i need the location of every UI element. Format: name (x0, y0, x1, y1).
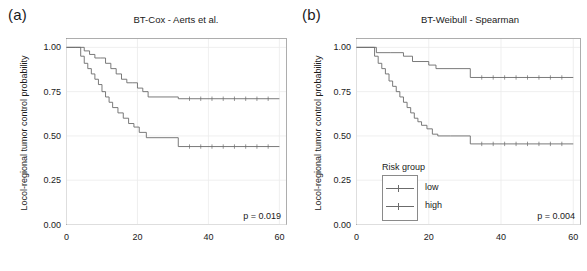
panel-a-title: BT-Cox - Aerts et al. (66, 14, 286, 25)
x-axis-tick-label: 40 (203, 232, 213, 242)
panel-b-title: BT-Weibull - Spearman (360, 14, 580, 25)
legend-label-high: high (425, 200, 442, 210)
panel-a-ylabel: Locol-regional tumor control probability (19, 33, 29, 233)
x-axis-tick-label: 20 (132, 232, 142, 242)
panel-a: (a) BT-Cox - Aerts et al. Locol-regional… (0, 0, 293, 271)
y-axis-tick-label: 0.50 (43, 131, 61, 141)
panel-b-pvalue: p = 0.004 (537, 211, 575, 221)
panel-b-plot-area: p = 0.004 Risk group low high 0.000.250.… (356, 38, 581, 225)
panel-a-chart-svg (66, 38, 287, 225)
x-axis-tick-label: 0 (64, 232, 69, 242)
x-axis-tick-label: 60 (274, 232, 284, 242)
y-axis-tick-label: 1.00 (43, 42, 61, 52)
legend-label-low: low (425, 182, 439, 192)
panel-b-ylabel: Locol-regional tumor control probability (313, 33, 323, 233)
y-axis-tick-label: 1.00 (333, 42, 351, 52)
x-axis-tick-label: 20 (424, 232, 434, 242)
y-axis-tick-label: 0.75 (333, 87, 351, 97)
legend-box: low high (382, 175, 418, 221)
y-axis-tick-label: 0.25 (333, 175, 351, 185)
legend-item-high[interactable]: high (383, 198, 417, 216)
y-axis-tick-label: 0.25 (43, 175, 61, 185)
panel-a-plot-area: p = 0.019 0.000.250.500.751.000204060 (66, 38, 287, 225)
figure-kaplan-meier: (a) BT-Cox - Aerts et al. Locol-regional… (0, 0, 587, 271)
x-axis-tick-label: 60 (568, 232, 578, 242)
legend-line-icon-high (386, 206, 414, 207)
y-axis-tick-label: 0.00 (43, 220, 61, 230)
y-axis-tick-label: 0.75 (43, 87, 61, 97)
legend-item-low[interactable]: low (383, 180, 417, 198)
legend-title: Risk group (382, 162, 490, 172)
panel-a-tag: (a) (8, 6, 27, 23)
y-axis-tick-label: 0.00 (333, 220, 351, 230)
legend-line-icon-low (386, 188, 414, 189)
legend: Risk group low high (382, 162, 490, 221)
panel-b: (b) BT-Weibull - Spearman Locol-regional… (294, 0, 587, 271)
x-axis-tick-label: 40 (496, 232, 506, 242)
y-axis-tick-label: 0.50 (333, 131, 351, 141)
panel-b-tag: (b) (302, 6, 321, 23)
panel-a-pvalue: p = 0.019 (243, 211, 281, 221)
x-axis-tick-label: 0 (354, 232, 359, 242)
